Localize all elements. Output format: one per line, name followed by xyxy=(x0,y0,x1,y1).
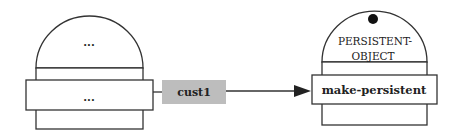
right-object-method-label: make-persistent xyxy=(322,83,427,97)
diagram-canvas: ... ... cust1 PERSISTENT- OBJECT make-pe… xyxy=(0,0,460,137)
persistent-dot-icon xyxy=(368,14,378,24)
arrowhead-icon xyxy=(294,85,311,97)
right-object: PERSISTENT- OBJECT make-persistent xyxy=(312,11,437,125)
right-object-class-name-line1: PERSISTENT- xyxy=(338,35,413,47)
left-object: ... ... xyxy=(26,16,153,129)
message-box: cust1 xyxy=(162,80,226,104)
right-object-class-name-line2: OBJECT xyxy=(351,50,394,62)
message-label: cust1 xyxy=(177,86,211,99)
left-object-state-label: ... xyxy=(83,36,95,49)
left-object-method-label: ... xyxy=(83,91,95,104)
